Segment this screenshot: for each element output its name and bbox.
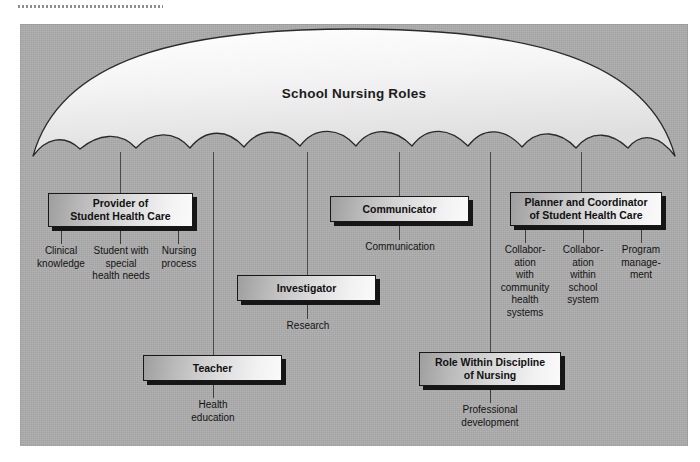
node-role-within-discipline[interactable]: Role Within Discipline of Nursing bbox=[419, 352, 561, 386]
node-communicator[interactable]: Communicator bbox=[330, 196, 469, 222]
leaf-text: system bbox=[553, 294, 613, 307]
leaf-professional-development: Professional development bbox=[443, 404, 537, 429]
rib-teacher bbox=[213, 152, 214, 357]
leaf-text: Nursing bbox=[152, 245, 206, 258]
leaf-line-collaboration-community bbox=[525, 230, 526, 243]
leaf-nursing-process: Nursing process bbox=[152, 245, 206, 270]
leaf-health-education: Health education bbox=[176, 399, 250, 424]
leaf-text: within bbox=[553, 269, 613, 282]
node-teacher[interactable]: Teacher bbox=[143, 355, 282, 381]
leaf-text: systems bbox=[493, 307, 557, 320]
leaf-text: community bbox=[493, 282, 557, 295]
rib-role-within-discipline bbox=[490, 152, 491, 354]
rib-investigator bbox=[307, 152, 308, 277]
leaf-text: process bbox=[152, 258, 206, 271]
rib-communicator bbox=[399, 152, 400, 197]
node-planner[interactable]: Planner and Coordinator of Student Healt… bbox=[510, 192, 662, 226]
leaf-text: development bbox=[443, 417, 537, 430]
leaf-text: school bbox=[553, 282, 613, 295]
leaf-text: ment bbox=[611, 269, 671, 282]
node-teacher-title: Teacher bbox=[189, 362, 237, 375]
leaf-line-collaboration-school bbox=[583, 230, 584, 243]
node-investigator-title: Investigator bbox=[273, 282, 341, 295]
leaf-text: Clinical bbox=[29, 245, 93, 258]
leaf-text: Professional bbox=[443, 404, 537, 417]
node-planner-line-1: Planner and Coordinator bbox=[520, 196, 651, 209]
node-provider-line-2: Student Health Care bbox=[66, 210, 174, 223]
leaf-student-special-needs: Student with special health needs bbox=[86, 245, 156, 283]
leaf-line-program-management bbox=[641, 230, 642, 243]
leaf-line-nursing-process bbox=[178, 231, 179, 244]
node-planner-line-2: of Student Health Care bbox=[520, 209, 651, 222]
leaf-text: Student with bbox=[86, 245, 156, 258]
leaf-program-management: Program manage- ment bbox=[611, 244, 671, 282]
leaf-text: health needs bbox=[86, 270, 156, 283]
leaf-line-research bbox=[307, 305, 308, 319]
leaf-line-communication bbox=[399, 226, 400, 240]
leaf-line-student-special-needs bbox=[120, 231, 121, 244]
leaf-text: Health bbox=[176, 399, 250, 412]
leaf-text: special bbox=[86, 258, 156, 271]
leaf-collaboration-school: Collabor- ation within school system bbox=[553, 244, 613, 307]
umbrella-title: School Nursing Roles bbox=[20, 86, 688, 101]
leaf-collaboration-community: Collabor- ation with community health sy… bbox=[493, 244, 557, 319]
leaf-text: ation bbox=[553, 257, 613, 270]
leaf-text: Collabor- bbox=[493, 244, 557, 257]
node-communicator-title: Communicator bbox=[358, 203, 440, 216]
leaf-line-clinical-knowledge bbox=[61, 231, 62, 244]
leaf-text: health bbox=[493, 294, 557, 307]
node-provider-line-1: Provider of bbox=[66, 197, 174, 210]
leaf-text: with bbox=[493, 269, 557, 282]
leaf-line-professional-development bbox=[490, 390, 491, 403]
leaf-text: education bbox=[176, 412, 250, 425]
page-scan-artifact bbox=[18, 5, 163, 8]
node-role-line-2: of Nursing bbox=[431, 369, 549, 382]
leaf-text: Communication bbox=[356, 241, 444, 254]
leaf-text: knowledge bbox=[29, 258, 93, 271]
leaf-text: Program bbox=[611, 244, 671, 257]
diagram-canvas: School Nursing Roles Provider of Student… bbox=[0, 0, 700, 462]
node-provider[interactable]: Provider of Student Health Care bbox=[48, 193, 193, 227]
leaf-clinical-knowledge: Clinical knowledge bbox=[29, 245, 93, 270]
leaf-line-health-education bbox=[213, 385, 214, 398]
leaf-text: Collabor- bbox=[553, 244, 613, 257]
rib-planner bbox=[581, 152, 582, 193]
leaf-text: manage- bbox=[611, 257, 671, 270]
leaf-text: ation bbox=[493, 257, 557, 270]
node-role-line-1: Role Within Discipline bbox=[431, 356, 549, 369]
leaf-text: Research bbox=[275, 320, 341, 333]
node-investigator[interactable]: Investigator bbox=[237, 275, 376, 301]
leaf-research: Research bbox=[275, 320, 341, 333]
rib-provider bbox=[120, 152, 121, 194]
leaf-communication: Communication bbox=[356, 241, 444, 254]
